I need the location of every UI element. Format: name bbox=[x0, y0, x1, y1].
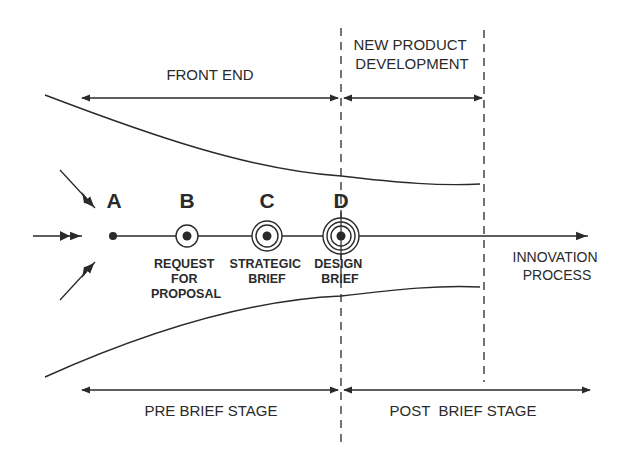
front-end-label: FRONT END bbox=[166, 66, 253, 83]
innovation-funnel-diagram: FRONT END NEW PRODUCT DEVELOPMENT INNOVA… bbox=[0, 0, 630, 466]
innovation-process-label: INNOVATION PROCESS bbox=[513, 249, 602, 283]
svg-text:C: C bbox=[259, 189, 274, 212]
pre-brief-stage-label: PRE BRIEF STAGE bbox=[144, 402, 277, 419]
svg-text:B: B bbox=[179, 189, 194, 212]
funnel-upper-curve bbox=[45, 95, 480, 185]
post-brief-stage-label: POST BRIEF STAGE bbox=[390, 402, 537, 419]
point-b-request-for-proposal: B REQUEST FOR PROPOSAL bbox=[151, 189, 222, 301]
svg-text:D: D bbox=[333, 189, 348, 212]
input-arrows bbox=[33, 170, 95, 300]
point-c-strategic-brief: C STRATEGIC BRIEF bbox=[230, 189, 305, 286]
svg-text:A: A bbox=[106, 189, 121, 212]
svg-text:DESIGN BRIEF: DESIGN BRIEF bbox=[314, 257, 365, 286]
npd-label: NEW PRODUCT DEVELOPMENT bbox=[353, 36, 470, 72]
funnel-lower-curve bbox=[45, 286, 480, 377]
svg-text:STRATEGIC BRIEF: STRATEGIC BRIEF bbox=[230, 257, 305, 286]
point-d-design-brief: D DESIGN BRIEF bbox=[314, 189, 365, 286]
point-a: A bbox=[106, 189, 121, 240]
svg-text:REQUEST FOR PROPOS: REQUEST FOR PROPOSAL bbox=[151, 257, 222, 301]
